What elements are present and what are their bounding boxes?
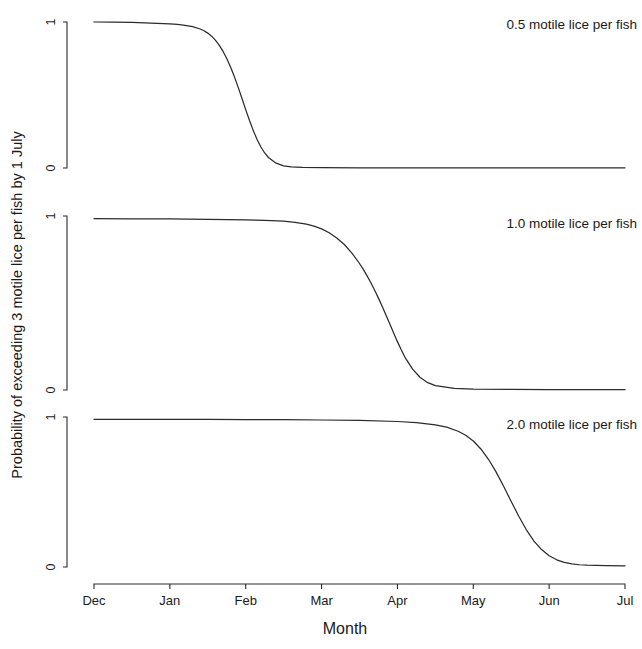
x-tick-label-may: May [461,593,486,608]
x-axis-title: Month [323,620,367,637]
chart-background [0,0,642,649]
panel-1-ytick-0: 0 [44,386,58,393]
panel-0-ytick-1: 1 [44,18,58,25]
x-tick-label-feb: Feb [235,593,257,608]
panel-1-label: 1.0 motile lice per fish [506,216,637,231]
chart-figure: Probability of exceeding 3 motile lice p… [0,0,642,649]
y-axis-title: Probability of exceeding 3 motile lice p… [9,131,25,479]
x-tick-label-jun: Jun [539,593,560,608]
panel-1-ytick-1: 1 [44,212,58,219]
panel-2-label: 2.0 motile lice per fish [506,417,637,432]
x-tick-label-mar: Mar [310,593,333,608]
x-tick-label-jan: Jan [159,593,180,608]
x-tick-label-dec: Dec [82,593,106,608]
x-tick-label-apr: Apr [387,593,408,608]
figure-caption [0,639,642,649]
panel-2-ytick-1: 1 [44,413,58,420]
panel-0-ytick-0: 0 [44,164,58,171]
panel-0-label: 0.5 motile lice per fish [506,17,637,32]
x-tick-label-jul: Jul [617,593,634,608]
panel-2-ytick-0: 0 [44,563,58,570]
